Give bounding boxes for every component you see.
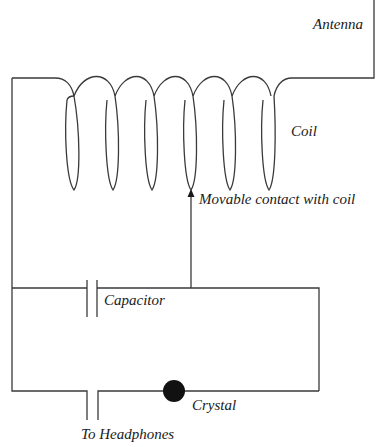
crystal-label: Crystal	[192, 398, 236, 413]
movable-contact-arrow	[188, 189, 195, 288]
capacitor-label: Capacitor	[104, 293, 165, 308]
contact-label: Movable contact with coil	[199, 192, 355, 207]
headphones-label: To Headphones	[81, 427, 174, 442]
coil-symbol	[12, 77, 292, 191]
antenna-wire	[292, 0, 374, 78]
left-wire	[12, 78, 87, 420]
crystal-radio-circuit	[0, 0, 387, 447]
coil-label: Coil	[291, 124, 317, 139]
crystal-symbol	[163, 380, 185, 402]
antenna-label: Antenna	[313, 17, 363, 32]
capacitor-symbol	[12, 280, 319, 391]
